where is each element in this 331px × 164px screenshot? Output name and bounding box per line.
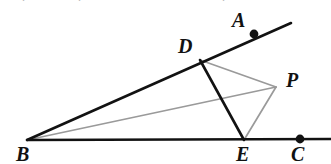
- ray-bc: [27, 139, 331, 140]
- top-text-fragment-2: .: [78, 0, 81, 3]
- top-text-fragment-1: .: [22, 0, 25, 3]
- point-label-p: P: [286, 70, 298, 90]
- point-dot-a: [250, 30, 259, 39]
- top-text-fragment-3: .: [222, 0, 225, 3]
- geometry-figure: A B C D E P . . .: [0, 0, 331, 164]
- point-label-e: E: [236, 144, 249, 164]
- point-label-c: C: [291, 144, 304, 164]
- segment-de: [200, 60, 244, 140]
- point-label-b: B: [16, 144, 29, 164]
- segment-pe-gray: [244, 87, 276, 140]
- ray-ba: [27, 23, 291, 140]
- figure-canvas: [0, 0, 331, 164]
- point-label-d: D: [178, 36, 192, 56]
- point-label-a: A: [232, 10, 245, 30]
